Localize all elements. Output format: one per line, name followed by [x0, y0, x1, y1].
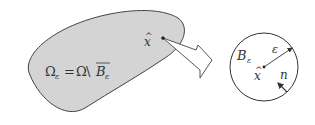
domain-omega-eps	[28, 11, 184, 112]
ball-label-subscript: ε	[247, 56, 251, 65]
ball-subscript: ε	[105, 72, 109, 81]
point-hat: ^	[145, 31, 153, 41]
omega-subscript: ε	[55, 72, 59, 81]
radius-label: ε	[272, 43, 278, 56]
domain-diagram: Ω ε = Ω \ B ε x ^ B ε x ^ ε n	[0, 0, 315, 125]
point-x-hat-dot	[161, 36, 164, 39]
domain-label: Ω ε = Ω \ B ε	[45, 63, 110, 81]
setminus-symbol: \	[86, 64, 91, 79]
normal-label: n	[280, 68, 288, 82]
center-hat: ^	[255, 65, 263, 75]
ball-label: B	[236, 48, 247, 63]
ball-symbol: B	[95, 64, 106, 79]
zoom-arrow	[163, 38, 212, 78]
equals-sign: =	[64, 64, 75, 79]
